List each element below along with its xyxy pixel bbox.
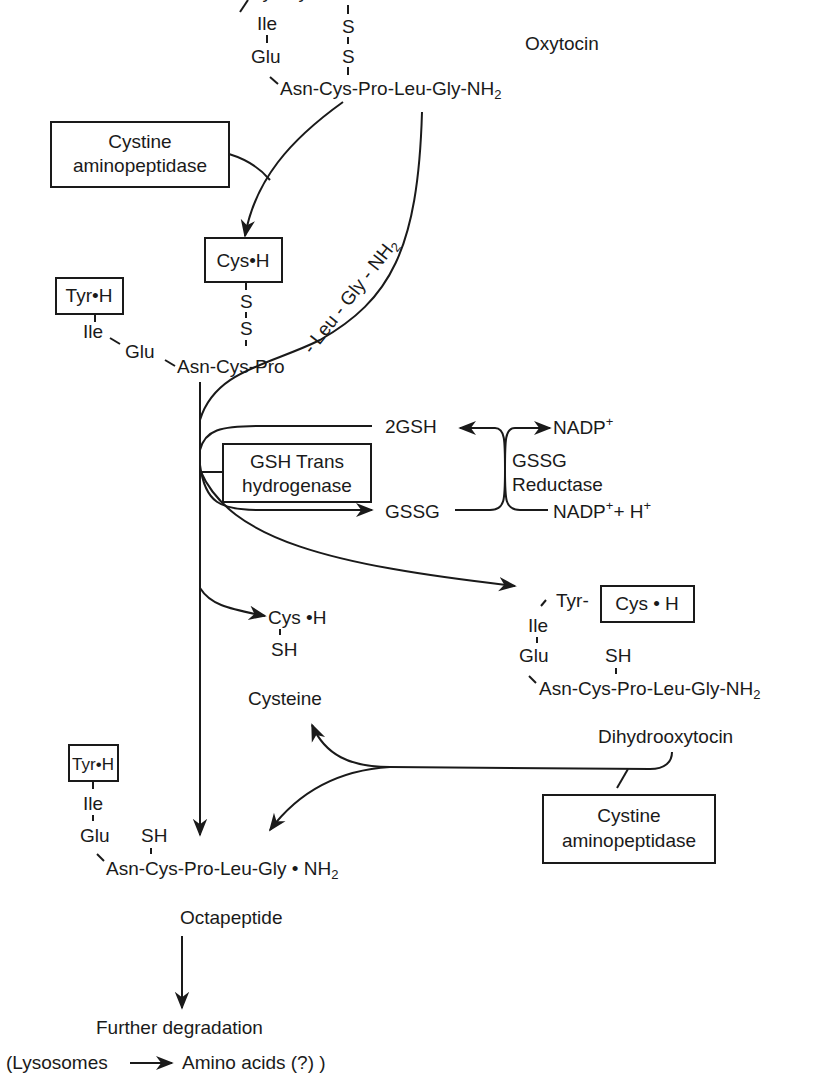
dihydrooxytocin-label: Dihydrooxytocin: [598, 726, 733, 747]
oxytocin-chain: Asn-Cys-Pro-Leu-Gly-NH2: [280, 78, 502, 102]
cystine-aminopeptidase-box-1: Cystine aminopeptidase: [51, 122, 229, 187]
svg-text:SH: SH: [141, 825, 167, 846]
svg-text:Glu: Glu: [80, 825, 110, 846]
gssg-to-gsh-curve: [455, 428, 505, 510]
svg-text:Ile: Ile: [83, 793, 103, 814]
bond-line: [240, 0, 248, 12]
svg-text:S: S: [240, 291, 253, 312]
svg-text:Cystine: Cystine: [597, 805, 660, 826]
dihydrooxytocin-structure: Tyr- Cys • H Ile Glu SH Asn-Cys-Pro-Leu-…: [519, 586, 761, 747]
svg-text:Glu: Glu: [125, 341, 155, 362]
arrow-to-cysteine: [200, 588, 265, 616]
svg-text:Asn-Cys-Pro: Asn-Cys-Pro: [177, 356, 285, 377]
oxytocin-degradation-diagram: Tyr-Cys•H Ile Glu S S Asn-Cys-Pro-Leu-Gl…: [0, 0, 839, 1088]
svg-text:GSH Trans: GSH Trans: [250, 451, 344, 472]
svg-text:Asn-Cys-Pro-Leu-Gly-NH2: Asn-Cys-Pro-Leu-Gly-NH2: [539, 678, 761, 702]
oxytocin-s1: S: [342, 16, 355, 37]
amino-acids-label: Amino acids (?) ): [182, 1052, 326, 1073]
svg-text:Asn-Cys-Pro-Leu-Gly • NH2: Asn-Cys-Pro-Leu-Gly • NH2: [106, 858, 338, 882]
octapeptide-label: Octapeptide: [180, 907, 282, 928]
oxytocin-label: Oxytocin: [525, 33, 599, 54]
oxytocin-glu: Glu: [251, 46, 281, 67]
svg-text:Tyr•H: Tyr•H: [72, 755, 114, 774]
dihydrooxytocin-line: [390, 752, 672, 769]
cysteine-label: Cysteine: [248, 688, 322, 709]
gssg-reductase-label-2: Reductase: [512, 474, 603, 495]
svg-text:Glu: Glu: [519, 645, 549, 666]
svg-text:Cystine: Cystine: [108, 131, 171, 152]
gsh-label: 2GSH: [385, 416, 437, 437]
svg-text:aminopeptidase: aminopeptidase: [562, 830, 696, 851]
released-fragment-label: - Leu - Gly - NH2: [299, 234, 404, 359]
arrow-to-octapeptide: [270, 767, 390, 830]
cystine-aminopeptidase-box-2: Cystine aminopeptidase: [543, 795, 715, 863]
oxytocin-structure: Tyr-Cys•H Ile Glu S S Asn-Cys-Pro-Leu-Gl…: [240, 0, 599, 102]
enzyme-connector: [617, 769, 628, 788]
oxytocin-s2: S: [342, 46, 355, 67]
svg-text:SH: SH: [271, 639, 297, 660]
svg-text:Cys •H: Cys •H: [268, 607, 326, 628]
svg-text:SH: SH: [605, 645, 631, 666]
svg-text:Cys•H: Cys•H: [216, 250, 269, 271]
bond-line: [270, 77, 278, 84]
cysteine-structure: Cys •H SH Cysteine: [248, 607, 326, 709]
further-degradation-label: Further degradation: [96, 1017, 263, 1038]
svg-text:Tyr•H: Tyr•H: [66, 285, 113, 306]
lysosomes-label: (Lysosomes: [6, 1052, 108, 1073]
gsh-transhydrogenase-box: GSH Trans hydrogenase: [223, 444, 371, 502]
nadph-label: NADP++ H+: [553, 498, 651, 522]
nadp-label: NADP+: [553, 414, 613, 438]
octapeptide-structure: Tyr•H Ile Glu SH Asn-Cys-Pro-Leu-Gly • N…: [69, 745, 338, 928]
oxytocin-top-chain: Tyr-Cys•H: [252, 0, 338, 2]
svg-text:Ile: Ile: [83, 321, 103, 342]
intermediate-structure: Cys•H S S Tyr•H Ile Glu Asn-Cys-Pro: [56, 238, 285, 377]
enzyme-connector: [229, 154, 270, 180]
svg-text:Cys • H: Cys • H: [615, 593, 679, 614]
gssg-reductase-label: GSSG: [512, 450, 567, 471]
svg-text:aminopeptidase: aminopeptidase: [73, 155, 207, 176]
svg-text:Tyr-: Tyr-: [556, 590, 589, 611]
arrow-to-cysteine-2: [312, 725, 390, 767]
svg-text:hydrogenase: hydrogenase: [242, 475, 352, 496]
svg-text:S: S: [240, 318, 253, 339]
svg-text:Ile: Ile: [528, 615, 548, 636]
gssg-label: GSSG: [385, 501, 440, 522]
oxytocin-ile: Ile: [257, 13, 277, 34]
